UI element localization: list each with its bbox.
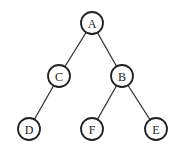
node-c: C bbox=[48, 65, 70, 87]
node-b: B bbox=[111, 65, 133, 87]
node-c-label: C bbox=[55, 70, 63, 84]
node-f-label: F bbox=[89, 123, 96, 137]
node-e: E bbox=[145, 118, 167, 140]
node-e-label: E bbox=[152, 123, 159, 137]
node-a-label: A bbox=[88, 17, 97, 31]
node-d: D bbox=[18, 118, 40, 140]
node-f: F bbox=[81, 118, 103, 140]
node-a: A bbox=[81, 12, 103, 34]
node-b-label: B bbox=[118, 70, 126, 84]
node-d-label: D bbox=[25, 123, 34, 137]
tree-diagram: A C B D F E bbox=[0, 0, 181, 157]
